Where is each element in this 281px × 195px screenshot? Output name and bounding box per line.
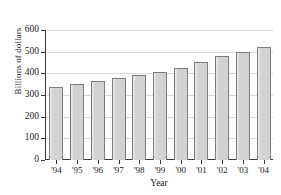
x-tick-mark [264, 160, 265, 164]
x-tick-mark [160, 160, 161, 164]
x-tick-label: '98 [134, 166, 145, 175]
x-tick-label: '03 [238, 166, 249, 175]
x-tick-mark [243, 160, 244, 164]
y-tick-mark [41, 52, 45, 53]
y-tick-label: 200 [25, 112, 39, 122]
x-tick-mark [56, 160, 57, 164]
x-tick-label: '01 [196, 166, 207, 175]
x-axis-title: Year [45, 178, 273, 188]
x-tick-label: '04 [258, 166, 269, 175]
bar [215, 56, 229, 160]
bar [257, 47, 271, 160]
y-tick-mark [41, 160, 45, 161]
bar [153, 72, 167, 160]
bar [112, 78, 126, 160]
bar [174, 68, 188, 160]
bar [132, 75, 146, 160]
plot-area: 0100200300400500600 '94'95'96'97'98'99'0… [45, 30, 273, 160]
y-tick-mark [41, 95, 45, 96]
x-tick-mark [77, 160, 78, 164]
x-tick-mark [222, 160, 223, 164]
y-tick-label: 500 [25, 47, 39, 57]
x-tick-mark [201, 160, 202, 164]
x-tick-label: '00 [175, 166, 186, 175]
bar [91, 81, 105, 160]
x-tick-label: '95 [72, 166, 83, 175]
x-tick-mark [139, 160, 140, 164]
bar [194, 62, 208, 160]
x-tick-label: '97 [113, 166, 124, 175]
x-tick-mark [119, 160, 120, 164]
x-tick-label: '99 [155, 166, 166, 175]
x-tick-mark [181, 160, 182, 164]
y-tick-label: 100 [25, 134, 39, 144]
y-axis-title: Billions of dollars [13, 0, 23, 131]
y-tick-label: 600 [25, 25, 39, 35]
x-tick-label: '02 [217, 166, 228, 175]
bar [236, 52, 250, 160]
y-tick-label: 0 [34, 155, 39, 165]
x-tick-label: '94 [51, 166, 62, 175]
bar-chart-figure: Billions of dollars 0100200300400500600 … [0, 0, 281, 195]
y-tick-label: 400 [25, 69, 39, 79]
y-tick-mark [41, 117, 45, 118]
gridline [46, 30, 273, 31]
y-tick-mark [41, 73, 45, 74]
y-tick-mark [41, 138, 45, 139]
bar [49, 87, 63, 160]
bar [70, 84, 84, 160]
y-tick-mark [41, 30, 45, 31]
x-tick-label: '96 [93, 166, 104, 175]
y-tick-label: 300 [25, 90, 39, 100]
x-tick-mark [98, 160, 99, 164]
